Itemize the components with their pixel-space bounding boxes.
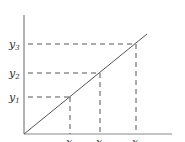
y3-label: y3 (8, 38, 20, 52)
guide-point-2 (28, 73, 100, 134)
y1-label: y1 (8, 91, 20, 105)
x2-label: x2 (96, 136, 107, 142)
linear-graph-diagram: y3 y2 y1 x1 x2 x3 (0, 0, 185, 142)
x3-label: x3 (132, 136, 143, 142)
function-line (24, 34, 147, 134)
guide-point-1 (28, 97, 70, 134)
y2-label: y2 (8, 67, 20, 81)
guide-point-3 (28, 44, 136, 134)
x1-label: x1 (66, 136, 77, 142)
